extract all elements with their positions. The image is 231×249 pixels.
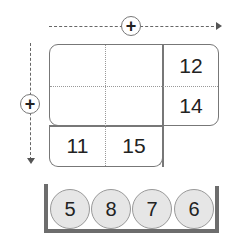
empty-cell[interactable] <box>106 45 162 86</box>
empty-cell[interactable] <box>50 45 105 86</box>
number-ball[interactable]: 5 <box>50 189 90 229</box>
number-ball[interactable]: 7 <box>132 189 172 229</box>
grid-row-divider-solid <box>49 125 163 127</box>
number-ball[interactable]: 8 <box>91 189 131 229</box>
row-sum-cell: 14 <box>164 94 218 118</box>
column-sum-cell: 11 <box>50 134 105 158</box>
arrow-down-icon <box>27 158 35 164</box>
tray-right-wall <box>215 186 219 232</box>
empty-cell[interactable] <box>106 87 162 125</box>
vertical-plus-operator: + <box>20 94 40 114</box>
empty-cell[interactable] <box>50 87 105 125</box>
tray-bottom <box>44 229 219 233</box>
horizontal-plus-operator: + <box>121 16 141 36</box>
arrow-right-icon <box>216 22 222 30</box>
tray-left-wall <box>44 184 48 232</box>
row-sum-cell: 12 <box>164 54 218 78</box>
column-sum-cell: 15 <box>106 134 162 158</box>
number-ball[interactable]: 6 <box>174 189 214 229</box>
